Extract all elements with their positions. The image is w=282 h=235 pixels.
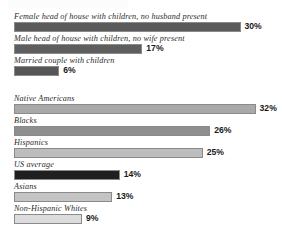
bar-track — [14, 66, 59, 76]
bar-row: Asians13% — [0, 182, 282, 204]
chart-group-race-ethnicity: Native Americans32%Blacks26%Hispanics25%… — [0, 94, 282, 226]
bar-fill — [14, 192, 112, 202]
bar-fill — [14, 22, 241, 32]
cropped-title-remnant — [8, 0, 128, 8]
bar-row: Native Americans32% — [0, 94, 282, 116]
bar-category-label: US average — [14, 160, 54, 169]
bar-fill — [14, 214, 82, 224]
bar-value-label: 13% — [116, 191, 133, 202]
bar-row: Non-Hispanic Whites9% — [0, 204, 282, 226]
bar-category-label: Non-Hispanic Whites — [14, 204, 87, 213]
bar-category-label: Blacks — [14, 116, 37, 125]
bar-fill — [14, 66, 59, 76]
bar-track — [14, 214, 82, 224]
bar-category-label: Native Americans — [14, 94, 75, 103]
bar-value-label: 6% — [63, 65, 75, 76]
bar-track — [14, 126, 210, 136]
bar-value-label: 32% — [260, 103, 277, 114]
bar-value-label: 25% — [207, 147, 224, 158]
chart-group-household-type: Female head of house with children, no h… — [0, 12, 282, 78]
bar-row: US average14% — [0, 160, 282, 182]
bar-track — [14, 192, 112, 202]
bar-category-label: Female head of house with children, no h… — [14, 12, 207, 21]
bar-track — [14, 148, 203, 158]
bar-track — [14, 22, 241, 32]
bar-category-label: Asians — [14, 182, 37, 191]
bar-value-label: 26% — [214, 125, 231, 136]
bar-fill — [14, 148, 203, 158]
bar-row: Female head of house with children, no h… — [0, 12, 282, 34]
bar-value-label: 30% — [245, 21, 262, 32]
bar-fill — [14, 170, 120, 180]
bar-track — [14, 170, 120, 180]
bar-fill — [14, 44, 142, 54]
bar-category-label: Married couple with children — [14, 56, 115, 65]
bar-row: Hispanics25% — [0, 138, 282, 160]
bar-value-label: 17% — [146, 43, 163, 54]
bar-track — [14, 104, 256, 114]
bar-track — [14, 44, 142, 54]
bar-fill — [14, 126, 210, 136]
poverty-rate-bar-chart: Female head of house with children, no h… — [0, 0, 282, 235]
bar-value-label: 9% — [86, 213, 98, 224]
bar-fill — [14, 104, 256, 114]
bar-row: Blacks26% — [0, 116, 282, 138]
bar-category-label: Hispanics — [14, 138, 48, 147]
bar-category-label: Male head of house with children, no wif… — [14, 34, 185, 43]
bar-value-label: 14% — [124, 169, 141, 180]
bar-row: Married couple with children6% — [0, 56, 282, 78]
bar-row: Male head of house with children, no wif… — [0, 34, 282, 56]
